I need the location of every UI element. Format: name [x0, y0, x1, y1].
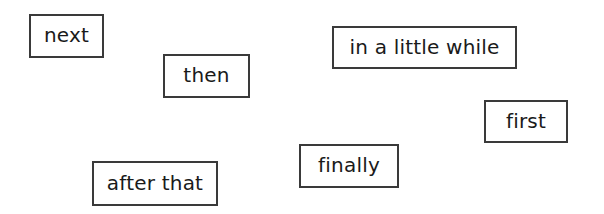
word-card-after-that[interactable]: after that — [92, 161, 218, 206]
word-card-first[interactable]: first — [484, 100, 568, 143]
word-card-label: then — [183, 65, 229, 85]
word-card-label: first — [506, 111, 546, 131]
word-card-then[interactable]: then — [163, 54, 250, 98]
word-card-label: in a little while — [349, 37, 499, 57]
word-card-label: next — [44, 25, 89, 45]
word-card-in-a-little-while[interactable]: in a little while — [332, 26, 517, 69]
word-card-label: finally — [318, 155, 380, 175]
word-card-next[interactable]: next — [29, 14, 104, 58]
word-card-finally[interactable]: finally — [299, 144, 399, 188]
word-card-label: after that — [107, 173, 203, 193]
